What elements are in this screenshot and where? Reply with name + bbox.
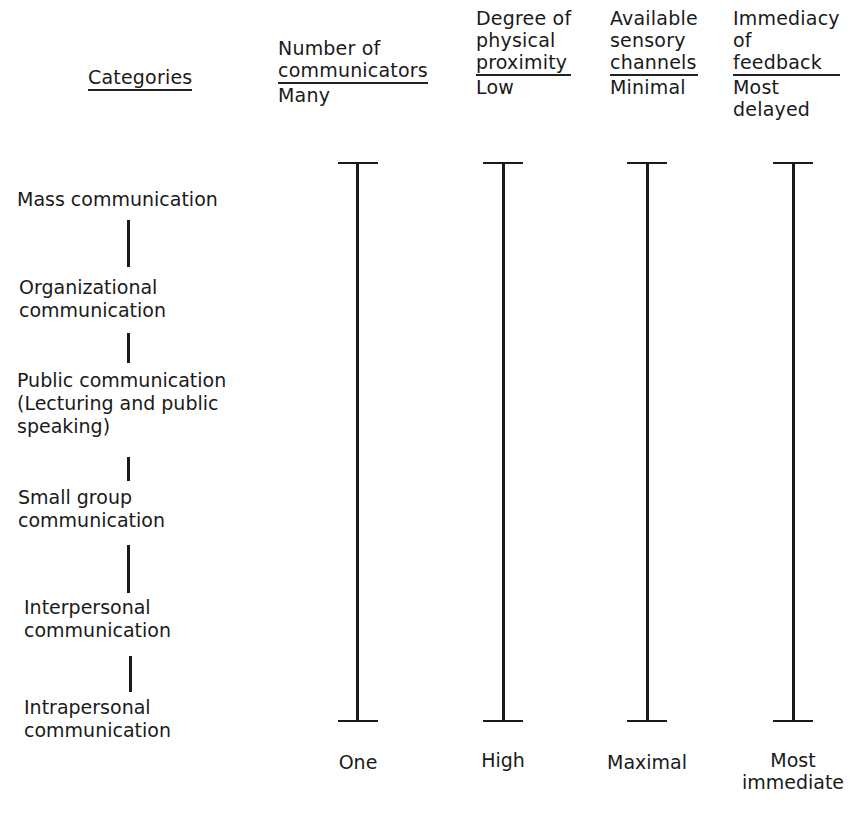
column-top-value: Low — [476, 76, 571, 98]
scale-bottom-cap — [483, 720, 523, 722]
category-line: Interpersonal — [24, 596, 171, 619]
column-top-value: Many — [278, 84, 428, 106]
category-line: speaking) — [17, 415, 226, 438]
category-line: communication — [24, 719, 171, 742]
column-title-line: Immediacy — [733, 7, 840, 29]
column-title-line: channels — [610, 51, 698, 76]
column-bottom-value-communicators: One — [318, 751, 398, 773]
column-title-line: sensory — [610, 29, 698, 51]
category-small-group: Small group communication — [18, 486, 165, 532]
category-line: Small group — [18, 486, 165, 509]
scale-stem — [792, 163, 795, 721]
category-intrapersonal: Intrapersonal communication — [24, 696, 171, 742]
column-bottom-value: Maximal — [592, 751, 702, 773]
category-connector — [127, 545, 130, 593]
column-title-line: Degree of — [476, 7, 571, 29]
column-bottom-value-proximity: High — [463, 749, 543, 771]
column-top-value: Most — [733, 76, 840, 98]
column-header-feedback: Immediacy of feedback Most delayed — [733, 7, 840, 120]
category-line: Mass communication — [17, 188, 218, 211]
column-title-line: of — [733, 29, 840, 51]
column-top-value: delayed — [733, 98, 840, 120]
column-title-line: proximity — [476, 51, 571, 76]
category-connector — [127, 333, 130, 363]
category-connector — [127, 220, 130, 267]
column-header-sensory-channels: Available sensory channels Minimal — [610, 7, 698, 98]
column-header-communicators: Number of communicators Many — [278, 37, 428, 106]
category-interpersonal: Interpersonal communication — [24, 596, 171, 642]
column-title-line: feedback — [733, 51, 840, 76]
column-bottom-value: High — [463, 749, 543, 771]
category-line: (Lecturing and public — [17, 392, 226, 415]
category-organizational: Organizational communication — [19, 276, 166, 322]
column-title-line: Number of — [278, 37, 428, 59]
category-line: Intrapersonal — [24, 696, 171, 719]
category-connector — [129, 656, 132, 692]
categories-header: Categories — [88, 66, 192, 91]
scale-stem — [502, 163, 505, 721]
column-bottom-value-sensory-channels: Maximal — [592, 751, 702, 773]
column-header-proximity: Degree of physical proximity Low — [476, 7, 571, 98]
category-line: communication — [24, 619, 171, 642]
column-bottom-value-feedback: Most immediate — [733, 749, 853, 793]
column-title-line: physical — [476, 29, 571, 51]
column-title-line: Available — [610, 7, 698, 29]
scale-bottom-cap — [773, 720, 813, 722]
category-connector — [127, 457, 130, 481]
categories-header-label: Categories — [88, 66, 192, 91]
scale-bottom-cap — [627, 720, 667, 722]
column-bottom-value: immediate — [733, 771, 853, 793]
column-title-line: communicators — [278, 59, 428, 84]
column-bottom-value: Most — [733, 749, 853, 771]
category-line: Organizational — [19, 276, 166, 299]
category-line: Public communication — [17, 369, 226, 392]
scale-bottom-cap — [338, 720, 378, 722]
category-line: communication — [19, 299, 166, 322]
category-public: Public communication (Lecturing and publ… — [17, 369, 226, 438]
category-line: communication — [18, 509, 165, 532]
category-mass: Mass communication — [17, 188, 218, 211]
scale-stem — [356, 163, 359, 721]
column-bottom-value: One — [318, 751, 398, 773]
scale-stem — [646, 163, 649, 721]
column-top-value: Minimal — [610, 76, 698, 98]
